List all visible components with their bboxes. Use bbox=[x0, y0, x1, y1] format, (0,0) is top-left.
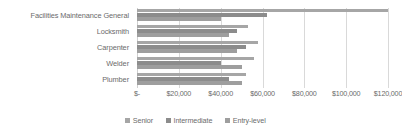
bar-entry-level bbox=[137, 49, 237, 53]
bar-senior bbox=[137, 25, 248, 29]
category-label: Carpenter bbox=[0, 44, 129, 52]
category-axis: Facilities Maintenance General Locksmith… bbox=[0, 8, 133, 88]
axis-tick-label: $120,000 bbox=[374, 89, 402, 99]
legend-label: Intermediate bbox=[174, 116, 213, 125]
bar-entry-level bbox=[137, 65, 242, 69]
legend-swatch-icon bbox=[166, 118, 171, 123]
bar-entry-level bbox=[137, 33, 229, 37]
legend-label: Entry-level bbox=[233, 116, 266, 125]
bar-intermediate bbox=[137, 29, 237, 33]
bar-intermediate bbox=[137, 77, 229, 81]
legend-label: Senior bbox=[133, 116, 153, 125]
gridline bbox=[346, 8, 347, 88]
bar-senior bbox=[137, 41, 258, 45]
bar-entry-level bbox=[137, 81, 242, 85]
axis-tick-label: $40,000 bbox=[208, 89, 233, 99]
legend-item-senior[interactable]: Senior bbox=[125, 116, 153, 125]
chart-legend: Senior Intermediate Entry-level bbox=[0, 116, 391, 125]
gridline bbox=[388, 8, 389, 88]
category-label: Plumber bbox=[0, 76, 129, 84]
axis-tick-label: $60,000 bbox=[250, 89, 275, 99]
axis-tick-label: $100,000 bbox=[332, 89, 360, 99]
legend-swatch-icon bbox=[225, 118, 230, 123]
category-label: Facilities Maintenance General bbox=[0, 12, 129, 20]
gridline bbox=[263, 8, 264, 88]
legend-swatch-icon bbox=[125, 118, 130, 123]
legend-item-intermediate[interactable]: Intermediate bbox=[166, 116, 212, 125]
bar-senior bbox=[137, 9, 388, 13]
bar-senior bbox=[137, 73, 246, 77]
axis-tick-label: $20,000 bbox=[167, 89, 192, 99]
axis-tick-label: $80,000 bbox=[292, 89, 317, 99]
bar-intermediate bbox=[137, 13, 267, 17]
gridline bbox=[304, 8, 305, 88]
bar-intermediate bbox=[137, 45, 246, 49]
category-label: Welder bbox=[0, 60, 129, 68]
bar-entry-level bbox=[137, 17, 221, 21]
bar-senior bbox=[137, 57, 254, 61]
axis-tick-label: $- bbox=[134, 89, 140, 99]
value-axis: $- $20,000 $40,000 $60,000 $80,000 $100,… bbox=[137, 89, 388, 101]
plot-area bbox=[137, 8, 388, 88]
category-label: Locksmith bbox=[0, 28, 129, 36]
legend-item-entry-level[interactable]: Entry-level bbox=[225, 116, 265, 125]
bar-intermediate bbox=[137, 61, 221, 65]
